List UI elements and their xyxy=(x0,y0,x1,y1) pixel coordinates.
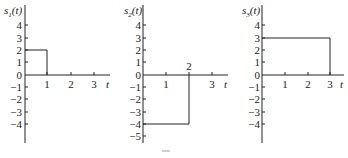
svg-text:−3: −3 xyxy=(10,106,22,118)
svg-text:−2: −2 xyxy=(248,93,260,105)
x-tick-labels: 1 2 3 xyxy=(282,78,333,90)
signal-s1 xyxy=(25,50,47,75)
chart-s1-plot: s1(t) 4 3 2 1 0 −1 −2 −3 −4 1 2 3 t xyxy=(0,0,116,158)
svg-text:0: 0 xyxy=(255,69,261,81)
y-axis-title: s3(t) xyxy=(242,4,261,19)
y-axis-title: s1(t) xyxy=(4,4,23,19)
chart-s1: s1(t) 4 3 2 1 0 −1 −2 −3 −4 1 2 3 t xyxy=(0,0,116,158)
svg-text:2: 2 xyxy=(17,44,23,56)
svg-text:−3: −3 xyxy=(129,106,141,118)
chart-s2-plot: s2(t) 4 3 2 1 0 −1 −2 −3 −4 −5 1 3 xyxy=(116,0,232,158)
svg-text:3: 3 xyxy=(91,78,97,90)
x-tick-labels: 1 2 3 xyxy=(44,78,97,90)
y-tick-labels: 4 3 2 1 0 −1 −2 −3 −4 xyxy=(10,19,22,130)
y-axis-title: s2(t) xyxy=(124,4,143,19)
svg-text:3: 3 xyxy=(327,78,333,90)
svg-text:2: 2 xyxy=(68,78,74,90)
svg-text:4: 4 xyxy=(136,19,142,31)
svg-text:−5: −5 xyxy=(129,130,141,142)
svg-text:1: 1 xyxy=(44,78,50,90)
svg-text:2: 2 xyxy=(136,44,142,56)
svg-text:4: 4 xyxy=(255,19,261,31)
svg-text:3: 3 xyxy=(209,78,215,90)
svg-text:−2: −2 xyxy=(10,93,22,105)
svg-text:1: 1 xyxy=(17,56,23,68)
figure-footer-mark xyxy=(162,150,170,152)
svg-text:−4: −4 xyxy=(10,118,22,130)
svg-text:1: 1 xyxy=(255,56,261,68)
svg-text:1: 1 xyxy=(163,78,169,90)
svg-text:−1: −1 xyxy=(10,81,22,93)
chart-s3: s3(t) 4 3 2 1 0 −1 −2 −3 −4 1 2 3 t xyxy=(232,0,348,158)
svg-text:3: 3 xyxy=(136,32,142,44)
svg-text:−3: −3 xyxy=(248,106,260,118)
svg-text:2: 2 xyxy=(305,78,311,90)
svg-text:2: 2 xyxy=(255,44,261,56)
svg-text:−2: −2 xyxy=(129,93,141,105)
svg-text:3: 3 xyxy=(17,32,23,44)
chart-s2: s2(t) 4 3 2 1 0 −1 −2 −3 −4 −5 1 3 xyxy=(116,0,232,158)
svg-text:3: 3 xyxy=(255,32,261,44)
svg-text:−1: −1 xyxy=(248,81,260,93)
svg-text:−4: −4 xyxy=(248,118,260,130)
svg-text:−4: −4 xyxy=(129,118,141,130)
svg-text:0: 0 xyxy=(136,69,142,81)
annotation-label: 2 xyxy=(186,60,192,72)
svg-text:−1: −1 xyxy=(129,81,141,93)
y-tick-labels: 4 3 2 1 0 −1 −2 −3 −4 −5 xyxy=(129,19,141,142)
x-axis-title: t xyxy=(224,78,228,90)
svg-text:0: 0 xyxy=(17,69,23,81)
x-axis-title: t xyxy=(340,78,344,90)
y-tick-labels: 4 3 2 1 0 −1 −2 −3 −4 xyxy=(248,19,260,130)
signal-s3 xyxy=(262,38,330,75)
svg-text:1: 1 xyxy=(136,56,142,68)
x-axis-title: t xyxy=(106,78,110,90)
svg-text:4: 4 xyxy=(17,19,23,31)
svg-text:1: 1 xyxy=(282,78,288,90)
chart-s3-plot: s3(t) 4 3 2 1 0 −1 −2 −3 −4 1 2 3 t xyxy=(232,0,348,158)
